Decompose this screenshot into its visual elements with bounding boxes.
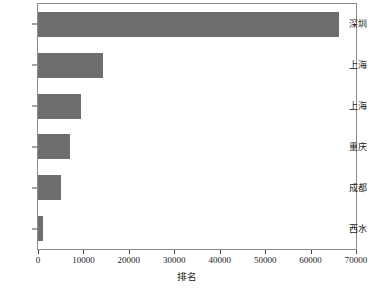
x-axis-tick-label-4: 40000 [208,255,231,266]
y-axis-label-text: 成都 [349,183,373,193]
y-tick-4 [32,187,37,188]
bars-layer [38,4,356,249]
x-tick-6 [311,250,312,254]
y-axis-label-text: 上海 [349,60,373,70]
x-tick-5 [265,250,266,254]
y-axis-label-5: 西水 [336,224,373,234]
y-axis-label-text: 西水 [349,224,373,234]
x-tick-1 [83,250,84,254]
y-axis-label-1: 上海 [336,60,373,70]
bar-0 [38,12,339,37]
y-axis-label-text: 上海 [349,101,373,111]
x-axis-tick-label-7: 70000 [345,255,368,266]
bar-chart: 深圳 上海 上海 重庆 成都 西水 0 10000 20000 30000 40… [0,0,373,288]
x-tick-2 [129,250,130,254]
bar-2 [38,94,81,119]
x-tick-4 [220,250,221,254]
y-axis-label-text: 深圳 [349,19,373,29]
bar-1 [38,53,103,78]
x-tick-0 [38,250,39,254]
x-axis-tick-label-0: 0 [36,255,41,266]
bar-5 [38,216,43,241]
x-axis-tick-label-1: 10000 [72,255,95,266]
bar-4 [38,175,61,200]
y-axis-label-3: 重庆 [336,142,373,152]
bar-3 [38,134,70,159]
x-axis-title: 排名 [0,269,373,283]
x-axis-tick-label-2: 20000 [118,255,141,266]
y-tick-0 [32,24,37,25]
y-tick-3 [32,146,37,147]
y-tick-2 [32,106,37,107]
y-axis-label-4: 成都 [336,183,373,193]
x-tick-3 [174,250,175,254]
x-axis-tick-label-5: 50000 [254,255,277,266]
y-axis-label-2: 上海 [336,101,373,111]
x-axis-tick-label-6: 60000 [299,255,322,266]
y-axis-label-text: 重庆 [349,142,373,152]
x-tick-7 [356,250,357,254]
y-tick-1 [32,65,37,66]
x-axis-tick-label-3: 30000 [163,255,186,266]
y-axis-label-0: 深圳 [336,19,373,29]
y-tick-5 [32,228,37,229]
